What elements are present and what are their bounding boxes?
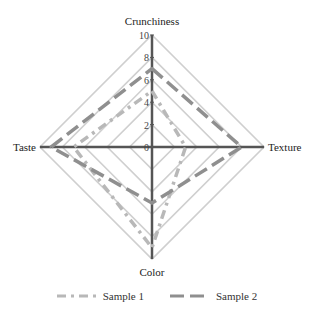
- axis-label-texture: Texture: [268, 141, 302, 153]
- legend-label: Sample 2: [216, 290, 257, 302]
- axis-label-color: Color: [139, 266, 164, 278]
- tick-label: 4: [144, 97, 149, 108]
- tick-label: 2: [144, 120, 149, 131]
- legend: Sample 1 Sample 2: [0, 290, 314, 302]
- legend-item-sample-2: Sample 2: [170, 290, 257, 302]
- tick-label: 8: [144, 52, 149, 63]
- legend-item-sample-1: Sample 1: [57, 290, 144, 302]
- sample-1-line-swatch: [57, 292, 97, 300]
- legend-label: Sample 1: [103, 290, 144, 302]
- sample-2-line-swatch: [170, 292, 210, 300]
- axis-label-crunchiness: Crunchiness: [125, 15, 179, 27]
- tick-label: 10: [139, 30, 149, 41]
- tick-label: 6: [144, 75, 149, 86]
- tick-label: 0: [144, 142, 149, 153]
- axis-label-taste: Taste: [13, 141, 36, 153]
- series-2-polygon: [51, 69, 241, 203]
- radar-chart: 0246810 CrunchinessTextureColorTaste: [0, 0, 314, 330]
